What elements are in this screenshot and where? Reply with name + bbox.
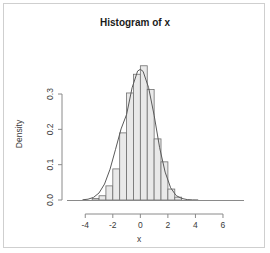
histogram-bar <box>147 89 154 200</box>
x-axis-tick-label: 0 <box>138 220 143 230</box>
y-axis-tick-label: 0.0 <box>45 194 55 206</box>
histogram-bar <box>113 169 120 200</box>
histogram-bar <box>168 189 175 200</box>
x-axis-tick-label: 2 <box>166 220 171 230</box>
histogram-bar <box>99 196 106 200</box>
y-axis-tick-label: 0.3 <box>45 88 55 100</box>
y-axis-tick-label: 0.2 <box>45 123 55 135</box>
histogram-bar <box>106 186 113 200</box>
x-axis-tick-label: -2 <box>109 220 117 230</box>
histogram-bar <box>133 74 140 200</box>
y-axis: 0.00.10.20.3 <box>45 88 62 206</box>
histogram-bar <box>120 133 127 200</box>
histogram-bar <box>140 66 147 200</box>
x-axis-tick-label: -4 <box>81 220 89 230</box>
histogram-plot: Histogram of x 0.00.10.20.3 -4-20246 Den… <box>4 4 266 249</box>
chart-title: Histogram of x <box>100 17 170 28</box>
histogram-bar <box>92 199 99 200</box>
y-axis-tick-label: 0.1 <box>45 159 55 171</box>
plot-frame: Histogram of x 0.00.10.20.3 -4-20246 Den… <box>3 3 265 248</box>
x-axis-label: x <box>137 234 142 244</box>
x-axis-tick-label: 4 <box>193 220 198 230</box>
x-axis-tick-label: 6 <box>221 220 226 230</box>
x-axis: -4-20246 <box>67 201 244 231</box>
y-axis-label: Density <box>14 119 24 148</box>
